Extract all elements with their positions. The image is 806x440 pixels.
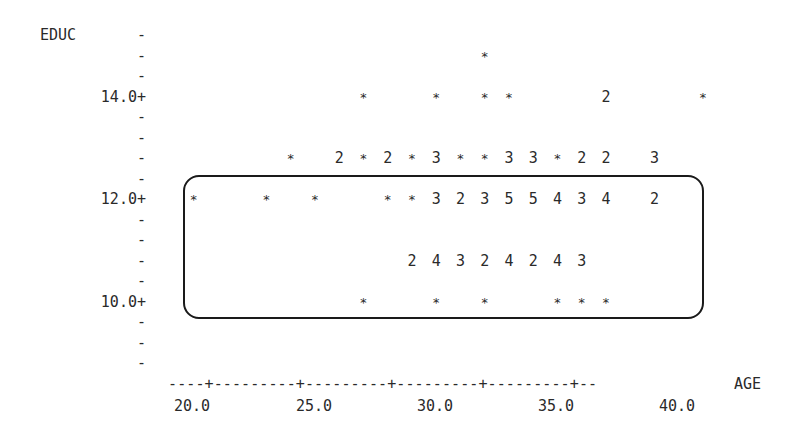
data-point: 4 [550, 191, 566, 207]
y-minor-tick: - [137, 130, 146, 146]
data-point: 2 [598, 89, 614, 105]
data-point: 3 [647, 150, 663, 166]
y-minor-tick: - [137, 232, 146, 248]
data-point: * [695, 90, 711, 106]
data-point: * [477, 151, 493, 167]
character-scatter-plot: EDUC --------------14.0+12.0+10.0+ 20.02… [0, 0, 806, 440]
data-point: 2 [647, 191, 663, 207]
data-point: 3 [501, 150, 517, 166]
y-tick-label: 10.0+ [26, 294, 146, 310]
y-minor-tick: - [137, 335, 146, 351]
data-point: * [356, 151, 372, 167]
x-tick-label: 40.0 [659, 398, 695, 414]
data-point: * [428, 295, 444, 311]
data-point: 3 [574, 253, 590, 269]
data-point: * [356, 90, 372, 106]
y-minor-tick: - [137, 212, 146, 228]
y-minor-tick: - [137, 355, 146, 371]
data-point: 3 [477, 191, 493, 207]
data-point: * [477, 295, 493, 311]
data-point: * [477, 90, 493, 106]
data-point: 4 [501, 253, 517, 269]
y-minor-tick: - [137, 171, 146, 187]
data-point: 2 [404, 253, 420, 269]
y-minor-tick: - [137, 253, 146, 269]
x-tick-label: 30.0 [417, 398, 453, 414]
data-point: * [477, 49, 493, 65]
data-point: * [380, 192, 396, 208]
x-axis-line: ----+---------+---------+---------+-----… [168, 376, 597, 392]
y-axis-title: EDUC [40, 27, 76, 43]
data-point: 3 [428, 191, 444, 207]
data-point: 5 [501, 191, 517, 207]
data-point: * [428, 90, 444, 106]
data-point: 4 [598, 191, 614, 207]
data-point: 3 [428, 150, 444, 166]
data-point: * [259, 192, 275, 208]
data-point: * [574, 295, 590, 311]
data-point: * [550, 295, 566, 311]
y-minor-tick: - [137, 48, 146, 64]
data-point: 2 [477, 253, 493, 269]
data-point: 2 [380, 150, 396, 166]
data-point: 2 [331, 150, 347, 166]
data-point: 2 [598, 150, 614, 166]
data-point: * [307, 192, 323, 208]
data-point: * [404, 151, 420, 167]
x-tick-label: 35.0 [538, 398, 574, 414]
data-point: 2 [453, 191, 469, 207]
x-tick-label: 20.0 [174, 398, 210, 414]
data-point: 3 [574, 191, 590, 207]
data-point: 5 [525, 191, 541, 207]
data-point: * [283, 151, 299, 167]
data-point: * [501, 90, 517, 106]
data-point: * [453, 151, 469, 167]
x-axis-title: AGE [734, 376, 761, 392]
data-point: 4 [428, 253, 444, 269]
data-point: 2 [574, 150, 590, 166]
y-minor-tick: - [137, 27, 146, 43]
data-point: * [186, 192, 202, 208]
y-tick-label: 14.0+ [26, 89, 146, 105]
y-tick-label: 12.0+ [26, 191, 146, 207]
y-minor-tick: - [137, 109, 146, 125]
data-point: * [356, 295, 372, 311]
data-point: * [550, 151, 566, 167]
data-point: * [404, 192, 420, 208]
y-minor-tick: - [137, 314, 146, 330]
data-point: 3 [525, 150, 541, 166]
y-minor-tick: - [137, 68, 146, 84]
y-minor-tick: - [137, 150, 146, 166]
data-point: 4 [550, 253, 566, 269]
data-point: * [598, 295, 614, 311]
x-tick-label: 25.0 [296, 398, 332, 414]
data-point: 2 [525, 253, 541, 269]
data-point: 3 [453, 253, 469, 269]
y-minor-tick: - [137, 273, 146, 289]
